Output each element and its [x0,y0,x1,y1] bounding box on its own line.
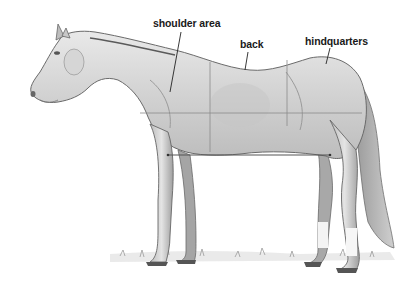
horse-anatomy-diagram: shoulder area back hindquarters [0,0,414,291]
nostril [31,91,36,97]
white-sock [318,222,328,248]
back-pointer [245,52,248,70]
label-back: back [240,38,264,50]
label-shoulder-area: shoulder area [153,17,221,29]
near-front-leg [150,124,173,262]
white-sock [346,228,357,256]
eye [54,51,60,55]
horse-body [31,31,367,158]
far-front-leg [178,150,196,262]
label-hindquarters: hindquarters [305,35,368,47]
